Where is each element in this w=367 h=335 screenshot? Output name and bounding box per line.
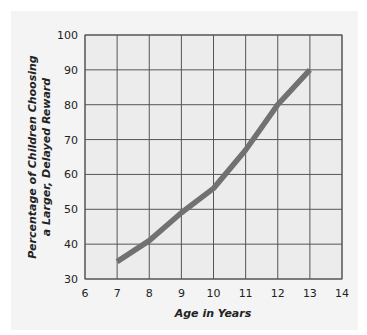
y-tick-label: 40 [64, 238, 78, 251]
x-tick-label: 12 [271, 287, 285, 300]
y-tick-label: 60 [64, 168, 78, 181]
x-tick-label: 8 [146, 287, 153, 300]
y-tick-label: 90 [64, 64, 78, 77]
x-tick-label: 14 [335, 287, 349, 300]
x-tick-label: 6 [82, 287, 89, 300]
y-axis-ticks: 30405060708090100 [57, 29, 78, 286]
y-tick-label: 80 [64, 99, 78, 112]
x-axis-ticks: 67891011121314 [82, 287, 350, 300]
x-axis-label: Age in Years [174, 307, 252, 320]
x-tick-label: 11 [239, 287, 253, 300]
x-tick-label: 10 [207, 287, 221, 300]
x-tick-label: 9 [178, 287, 185, 300]
y-axis-label-line-1: Percentage of Children Choosing [26, 55, 39, 259]
y-axis-label-line-2: a Larger, Delayed Reward [40, 78, 53, 236]
y-tick-label: 30 [64, 273, 78, 286]
line-chart: 30405060708090100 67891011121314 Age in … [0, 0, 367, 335]
y-tick-label: 50 [64, 203, 78, 216]
x-tick-label: 7 [114, 287, 121, 300]
x-tick-label: 13 [303, 287, 317, 300]
y-tick-label: 100 [57, 29, 78, 42]
y-tick-label: 70 [64, 134, 78, 147]
y-axis-label: Percentage of Children Choosing a Larger… [26, 55, 53, 259]
